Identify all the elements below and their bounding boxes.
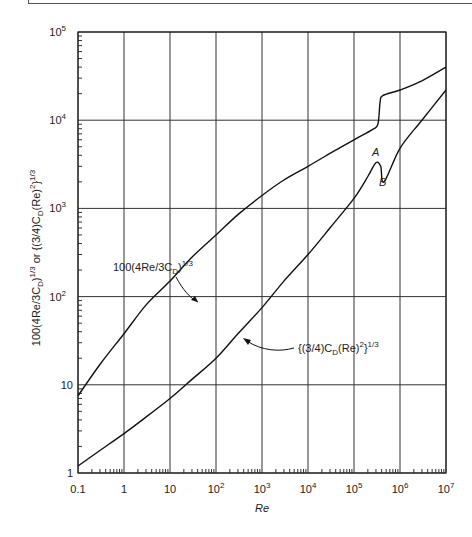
y-axis-tick-labels: 110102103104105 <box>49 24 73 479</box>
x-tick-label: 10 <box>164 483 176 495</box>
minor-ticks <box>78 36 444 473</box>
x-tick-label: 103 <box>254 481 271 495</box>
x-tick-label: 104 <box>300 481 317 495</box>
y-tick-label: 102 <box>49 289 66 303</box>
x-tick-label: 107 <box>438 481 455 495</box>
lower-curve-arrow <box>247 341 294 350</box>
x-tick-label: 105 <box>346 481 363 495</box>
point-b-label: B <box>379 176 386 188</box>
grid-lines <box>78 32 446 473</box>
y-axis-title: 100(4Re/3CD)1/3 or {(3/4)CD(Re)2}1/3 <box>28 169 45 346</box>
arrowhead-icon <box>243 338 251 345</box>
lower-curve-label: {(3/4)CD(Re)2}1/3 <box>298 340 379 357</box>
x-axis-title: Re <box>255 502 269 514</box>
upper-curve-label: 100(4Re/3CD)1/3 <box>113 259 193 276</box>
y-tick-label: 10 <box>61 379 73 391</box>
x-axis-tick-labels: 0.1110102103104105106107 <box>70 481 455 495</box>
x-tick-label: 0.1 <box>70 483 85 495</box>
y-tick-label: 105 <box>49 24 66 38</box>
x-tick-label: 106 <box>392 481 409 495</box>
x-tick-label: 1 <box>121 483 127 495</box>
x-tick-label: 102 <box>208 481 225 495</box>
y-tick-label: 103 <box>49 200 66 214</box>
y-tick-label: 104 <box>49 112 66 126</box>
y-tick-label: 1 <box>67 467 73 479</box>
point-a-label: A <box>371 146 379 158</box>
